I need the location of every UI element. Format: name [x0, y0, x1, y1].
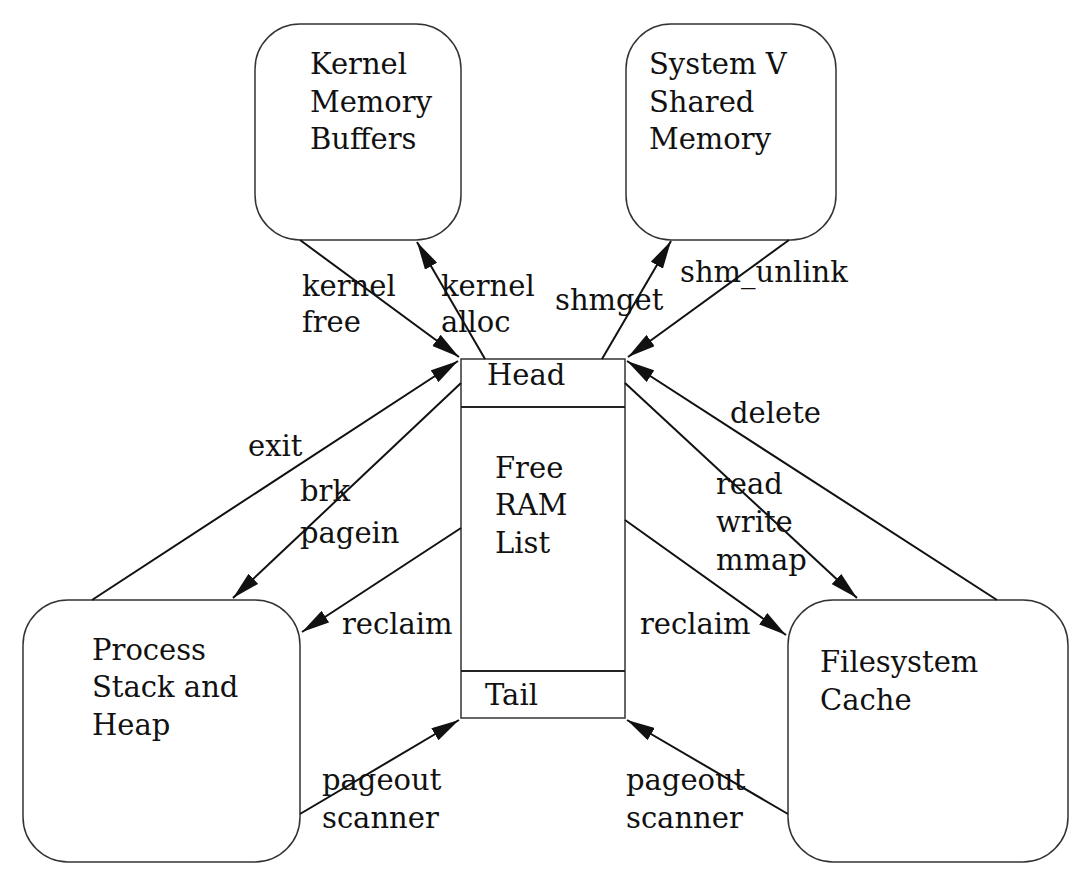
kernel-free-label: kernel free: [302, 269, 405, 339]
edge-pageout-right: pageout scanner: [626, 720, 788, 835]
pageout-left-label: pageout scanner: [322, 763, 451, 835]
kernel-alloc-label: kernel alloc: [441, 269, 544, 339]
edge-shmget: shmget: [555, 241, 671, 359]
edge-kernel-alloc: kernel alloc: [417, 242, 544, 359]
edge-brk-pagein: brk pagein: [233, 383, 461, 598]
exit-arrow: [92, 361, 458, 600]
reclaim-left-label: reclaim: [342, 607, 453, 641]
pageout-right-label: pageout scanner: [626, 763, 755, 835]
node-free-ram-list: Head Free RAM List Tail: [461, 358, 625, 718]
fscache-box: [788, 600, 1068, 862]
edge-pageout-left: pageout scanner: [300, 720, 459, 835]
node-filesystem-cache: Filesystem Cache: [788, 600, 1068, 862]
head-label: Head: [487, 358, 565, 392]
node-kernel-memory-buffers: Kernel Memory Buffers: [255, 24, 461, 240]
shm-unlink-label: shm_unlink: [680, 255, 848, 290]
reclaim-right-label: reclaim: [640, 607, 751, 641]
read-write-mmap-label: read write mmap: [716, 467, 807, 577]
delete-label: delete: [730, 396, 821, 430]
node-system-v-shared-memory: System V Shared Memory: [626, 24, 836, 240]
edge-kernel-free: kernel free: [300, 240, 459, 357]
shmget-label: shmget: [555, 283, 664, 317]
exit-label: exit: [248, 429, 303, 463]
edge-exit: exit: [92, 361, 458, 600]
edge-delete: delete: [627, 361, 997, 600]
tail-label: Tail: [485, 678, 538, 712]
brk-pagein-label: brk pagein: [300, 474, 400, 550]
node-process-stack-heap: Process Stack and Heap: [23, 600, 300, 862]
memory-flow-diagram: Kernel Memory Buffers System V Shared Me…: [0, 0, 1088, 887]
